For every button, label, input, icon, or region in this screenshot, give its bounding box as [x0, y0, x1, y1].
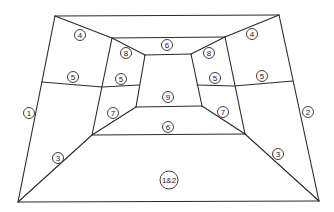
edge-inner-bottom [136, 106, 202, 107]
label-8-left: 8 [121, 48, 132, 59]
label-number: 5 [119, 75, 124, 84]
label-3-left: 3 [53, 153, 64, 164]
label-3-right: 3 [273, 149, 284, 160]
label-5-near-left: 5 [116, 74, 127, 85]
label-5-far-right: 5 [257, 71, 268, 82]
label-6-top: 6 [162, 40, 173, 51]
edge-outer-right [279, 15, 319, 201]
edge-inner-top [145, 54, 191, 55]
edge-inner-left [136, 55, 145, 107]
label-number: 9 [166, 93, 171, 102]
label-number: 7 [221, 108, 226, 117]
edge-outer-top [55, 15, 279, 16]
label-7-left: 7 [108, 108, 119, 119]
label-4-right: 4 [247, 29, 258, 40]
label-number: 1 [27, 109, 32, 118]
edge-diag-bl [18, 107, 136, 202]
label-5-near-right: 5 [210, 73, 221, 84]
numbered-region-diagram: 123344555566778891&2 [0, 0, 334, 212]
edge-outer-bottom [18, 201, 319, 202]
label-7-right: 7 [218, 107, 229, 118]
label-number: 4 [250, 30, 255, 39]
label-2: 2 [303, 107, 314, 118]
label-number: 1&2 [162, 176, 177, 185]
label-number: 3 [56, 154, 61, 163]
label-9: 9 [163, 92, 174, 103]
label-number: 4 [78, 31, 83, 40]
edge-diag-tr [191, 15, 279, 54]
label-1: 1 [24, 108, 35, 119]
label-1and2: 1&2 [160, 171, 178, 189]
label-number: 3 [276, 150, 281, 159]
label-4-left: 4 [75, 30, 86, 41]
label-number: 6 [165, 41, 170, 50]
label-number: 8 [207, 49, 212, 58]
edge-inner-right [191, 54, 202, 106]
label-6-bottom: 6 [163, 122, 174, 133]
label-number: 5 [260, 72, 265, 81]
label-number: 7 [111, 109, 116, 118]
label-number: 5 [71, 73, 76, 82]
label-number: 6 [166, 123, 171, 132]
label-number: 2 [306, 108, 311, 117]
label-number: 8 [124, 49, 129, 58]
edge-mid-bottom [92, 134, 245, 135]
label-5-far-left: 5 [68, 72, 79, 83]
diagram-labels: 123344555566778891&2 [24, 29, 314, 190]
label-number: 5 [213, 74, 218, 83]
edge-diag-tl [55, 16, 145, 55]
label-8-right: 8 [204, 48, 215, 59]
edge-mid-top [112, 37, 225, 38]
